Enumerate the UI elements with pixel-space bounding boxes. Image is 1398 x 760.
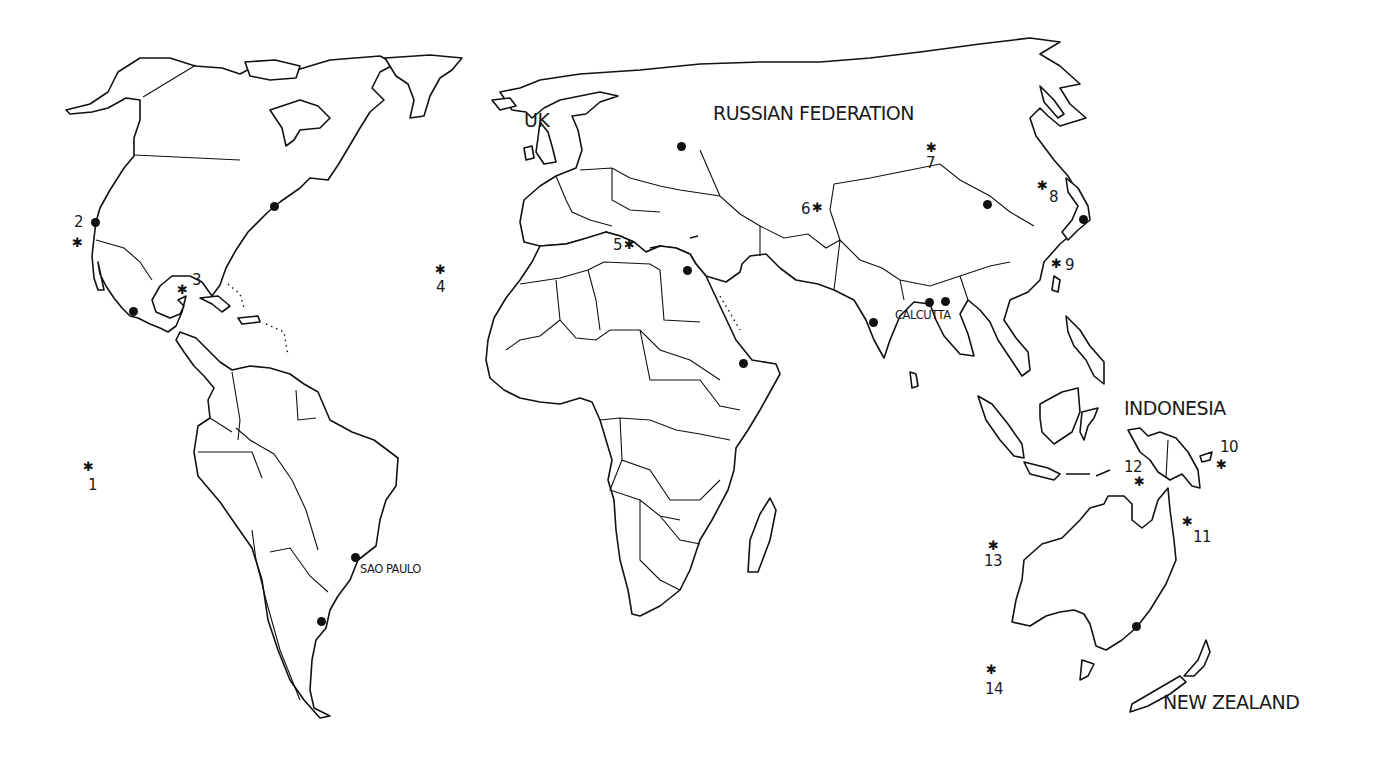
site-number-label: 13 [984, 554, 1002, 569]
city-dot-icon [317, 617, 326, 626]
city-dot-icon [1132, 622, 1141, 631]
site-star-icon: ✱ [435, 263, 446, 276]
city-label-sao-paulo: SAO PAULO [360, 564, 421, 576]
arctic-islands [245, 60, 300, 80]
city-dot-icon [869, 318, 878, 327]
site-star-icon: ✱ [1037, 179, 1048, 192]
site-star-icon: ✱ [926, 141, 937, 154]
city-dot-icon [683, 266, 692, 275]
philippines [1066, 316, 1104, 384]
sulawesi [1080, 408, 1098, 440]
site-number-label: 9 [1065, 258, 1074, 273]
cuba [200, 296, 230, 312]
site-number-label: 14 [985, 682, 1003, 697]
north-america-outline [66, 56, 395, 332]
city-dot-icon [129, 307, 138, 316]
site-number-label: 8 [1049, 190, 1058, 205]
country-label-russia: RUSSIAN FEDERATION [713, 104, 914, 123]
sumatra [978, 396, 1024, 458]
site-star-icon: ✱ [986, 663, 997, 676]
city-dot-icon [351, 553, 360, 562]
site-star-icon: ✱ [812, 201, 823, 214]
greenland-outline [385, 55, 462, 118]
site-star-icon: ✱ [1182, 515, 1193, 528]
lesser-sunda [1066, 470, 1110, 476]
city-dot-icon [91, 218, 100, 227]
site-star-icon: ✱ [988, 539, 999, 552]
city-dot-icon [739, 359, 748, 368]
city-dot-icon [677, 142, 686, 151]
madagascar-outline [748, 498, 776, 572]
site-star-icon: ✱ [1216, 458, 1227, 471]
south-america-outline [176, 332, 398, 718]
site-star-icon: ✱ [624, 238, 635, 251]
site-number-label: 4 [436, 280, 445, 295]
site-number-label: 11 [1193, 530, 1211, 545]
site-star-icon: ✱ [72, 236, 83, 249]
country-label-new-zealand: NEW ZEALAND [1163, 693, 1299, 712]
world-map [0, 0, 1398, 760]
site-number-label: 7 [926, 156, 935, 171]
site-number-label: 6 [801, 202, 810, 217]
solomon-islands [1200, 452, 1212, 462]
ireland-outline [524, 146, 534, 160]
borneo [1040, 388, 1080, 444]
site-star-icon: ✱ [1134, 475, 1145, 488]
city-label-calcutta: CALCUTTA [895, 310, 951, 322]
city-dot-icon [983, 200, 992, 209]
city-dot-icon [1079, 215, 1088, 224]
new-zealand-north [1184, 640, 1210, 676]
city-dot-icon [270, 202, 279, 211]
city-dot-icon [941, 297, 950, 306]
hispaniola [238, 316, 260, 324]
site-number-label: 2 [74, 215, 83, 230]
site-star-icon: ✱ [177, 283, 188, 296]
country-label-indonesia: INDONESIA [1124, 399, 1226, 418]
site-number-label: 1 [88, 478, 97, 493]
taiwan [1052, 276, 1060, 292]
australia-outline [1012, 488, 1176, 650]
sri-lanka [910, 372, 918, 388]
site-number-label: 3 [192, 273, 201, 288]
country-label-uk: UK [524, 111, 549, 130]
tasmania [1080, 660, 1094, 680]
site-star-icon: ✱ [1051, 257, 1062, 270]
city-dot-icon [925, 298, 934, 307]
site-number-label: 12 [1124, 460, 1142, 475]
site-number-label: 5 [613, 238, 622, 253]
site-number-label: 10 [1220, 440, 1238, 455]
site-star-icon: ✱ [83, 460, 94, 473]
africa-outline [486, 232, 780, 616]
java [1024, 462, 1060, 480]
